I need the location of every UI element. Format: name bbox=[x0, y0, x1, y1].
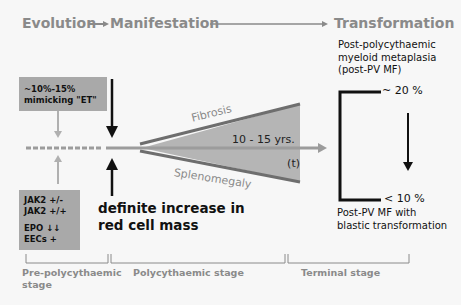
post-pv-mf-line2: myeloid metaplasia bbox=[338, 52, 436, 65]
post-pv-mf-line1: Post-polycythaemic bbox=[338, 39, 436, 52]
gray-arrow-up bbox=[54, 155, 62, 184]
header-manifestation: Manifestation bbox=[110, 15, 219, 31]
stage-terminal: Terminal stage bbox=[301, 267, 380, 279]
et-percent: ~10%-15% bbox=[24, 84, 102, 95]
stage-pre-polycythaemic: Pre-polycythaemic stage bbox=[22, 267, 122, 291]
red-cell-mass-line2: red cell mass bbox=[98, 217, 245, 234]
gray-arrow-down bbox=[54, 110, 62, 138]
stage-brackets bbox=[26, 254, 409, 263]
header-evolution: Evolution bbox=[22, 15, 96, 31]
stage-polycythaemic: Polycythaemic stage bbox=[133, 267, 244, 279]
red-cell-mass-label: definite increase in red cell mass bbox=[98, 200, 245, 234]
post-pv-mf-line3: (post-PV MF) bbox=[338, 64, 436, 77]
transformation-down-arrow bbox=[403, 113, 413, 171]
red-cell-mass-line1: definite increase in bbox=[98, 200, 245, 217]
et-label: mimicking "ET" bbox=[24, 95, 102, 106]
jak2-het: JAK2 +/- bbox=[24, 195, 75, 206]
black-arrow-down bbox=[106, 79, 118, 138]
post-pv-mf-label: Post-polycythaemic myeloid metaplasia (p… bbox=[338, 39, 436, 77]
header-arrow-transformation bbox=[210, 21, 328, 27]
header-transformation: Transformation bbox=[334, 15, 454, 31]
time-label: (t) bbox=[287, 157, 300, 170]
black-arrow-up bbox=[106, 158, 118, 196]
stage-pre-line1: Pre-polycythaemic bbox=[22, 267, 122, 279]
transformation-bracket bbox=[340, 92, 381, 200]
duration-label: 10 - 15 yrs. bbox=[232, 133, 295, 146]
epo-low: EPO ↓↓ bbox=[24, 223, 75, 234]
markers-box: JAK2 +/- JAK2 +/+ EPO ↓↓ EECs + bbox=[19, 190, 80, 250]
et-mimicking-box: ~10%-15% mimicking "ET" bbox=[19, 77, 107, 111]
stage-pre-line2: stage bbox=[22, 279, 122, 291]
jak2-hom: JAK2 +/+ bbox=[24, 206, 75, 217]
top-percentage: ~ 20 % bbox=[382, 84, 423, 97]
bottom-percentage: < 10 % bbox=[384, 192, 425, 205]
blastic-line1: Post-PV MF with bbox=[337, 207, 447, 220]
timeline-arrowhead bbox=[318, 143, 327, 153]
blastic-line2: blastic transformation bbox=[337, 220, 447, 233]
eecs-positive: EECs + bbox=[24, 234, 75, 245]
blastic-transformation-label: Post-PV MF with blastic transformation bbox=[337, 207, 447, 232]
